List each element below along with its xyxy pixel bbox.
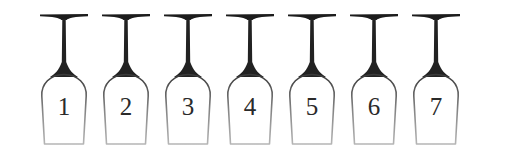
glass-shape	[405, 0, 467, 158]
glass-shape	[219, 0, 281, 158]
glass-stem	[50, 19, 78, 77]
glass-stem	[298, 19, 326, 77]
figure-canvas: 1234567	[0, 0, 514, 158]
glass-5: 5	[281, 0, 343, 158]
glass-number-label: 3	[157, 92, 219, 122]
glass-number-label: 4	[219, 92, 281, 122]
glass-stem	[422, 19, 450, 77]
glass-shape	[33, 0, 95, 158]
glass-stem	[236, 19, 264, 77]
glass-shape	[157, 0, 219, 158]
glass-row: 1234567	[0, 0, 514, 158]
glass-stem	[174, 19, 202, 77]
glass-number-label: 7	[405, 92, 467, 122]
glass-6: 6	[343, 0, 405, 158]
glass-stem	[360, 19, 388, 77]
glass-shape	[281, 0, 343, 158]
glass-stem	[112, 19, 140, 77]
glass-4: 4	[219, 0, 281, 158]
glass-number-label: 1	[33, 92, 95, 122]
glass-2: 2	[95, 0, 157, 158]
glass-number-label: 5	[281, 92, 343, 122]
glass-number-label: 6	[343, 92, 405, 122]
glass-shape	[95, 0, 157, 158]
glass-1: 1	[33, 0, 95, 158]
glass-number-label: 2	[95, 92, 157, 122]
glass-shape	[343, 0, 405, 158]
glass-3: 3	[157, 0, 219, 158]
glass-7: 7	[405, 0, 467, 158]
